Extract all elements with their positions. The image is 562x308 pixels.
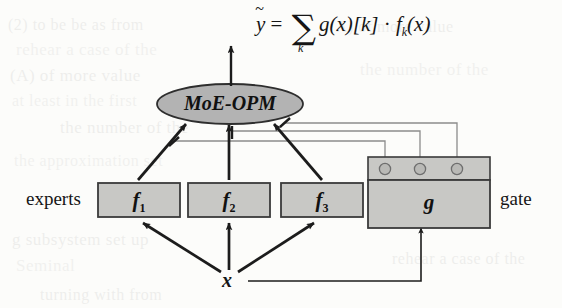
expert-f2-label-text: f (223, 188, 230, 212)
expert-to-aggregator-edges (138, 124, 322, 180)
formula-dot-operator: · (384, 12, 391, 36)
expert-f1-label-text: f (133, 188, 140, 212)
output-formula: ~y = ∑k g(x)[k] · fk(x) (256, 12, 430, 41)
gate-port-2-icon[interactable] (414, 163, 425, 174)
input-node-label: x (222, 269, 232, 292)
figure-canvas: (2) to be be as from rehear a case of th… (0, 0, 562, 308)
formula-output-var: ~y (256, 12, 265, 37)
gate-port-1-icon[interactable] (379, 163, 390, 174)
gate-wire-1 (174, 141, 385, 168)
formula-expert-arg: (x) (407, 12, 430, 36)
edge-x-to-gate (248, 228, 421, 281)
gate-box-label: g (368, 190, 490, 215)
experts-group-label: experts (26, 188, 81, 210)
expert-f2-label-sub: 2 (230, 201, 236, 215)
edge-x-to-f3 (238, 223, 314, 272)
formula-gate-term: g(x)[k] (319, 12, 378, 36)
formula-output-accent: ~ (255, 0, 264, 18)
expert-f3-label: f3 (281, 188, 363, 216)
expert-f1-label: f1 (98, 188, 180, 216)
gate-group-label: gate (500, 188, 532, 210)
edge-f3-to-moe (274, 124, 322, 180)
edge-x-to-f1 (143, 223, 221, 272)
formula-expert-term: fk(x) (396, 12, 430, 36)
input-to-expert-edges (143, 223, 314, 272)
formula-sigma-icon: ∑ (292, 16, 316, 40)
expert-f3-label-text: f (316, 188, 323, 212)
formula-sum-index: k (288, 41, 314, 56)
expert-f1-label-sub: 1 (140, 201, 146, 215)
moe-opm-label: MoE-OPM (172, 92, 288, 115)
gate-port-3-icon[interactable] (451, 163, 462, 174)
edge-f1-to-moe (138, 124, 186, 180)
formula-equals: = (271, 12, 283, 36)
expert-f3-label-sub: 3 (323, 201, 329, 215)
expert-f2-label: f2 (188, 188, 270, 216)
formula-summation: ∑k (288, 12, 314, 41)
diagram-svg (0, 0, 562, 308)
